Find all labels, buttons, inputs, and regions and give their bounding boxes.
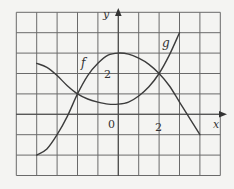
x-tick-label-2: 2 <box>155 121 162 134</box>
g-label: g <box>162 36 170 50</box>
y-axis-label: y <box>102 8 110 21</box>
x-axis-label: x <box>213 118 220 131</box>
graph-of-f-and-g: y x 0 2 2 f g <box>0 0 234 189</box>
origin-label: 0 <box>108 118 115 131</box>
y-tick-label-2: 2 <box>104 68 111 81</box>
f-label: f <box>80 56 88 70</box>
x-axis-arrow-icon <box>219 111 227 118</box>
